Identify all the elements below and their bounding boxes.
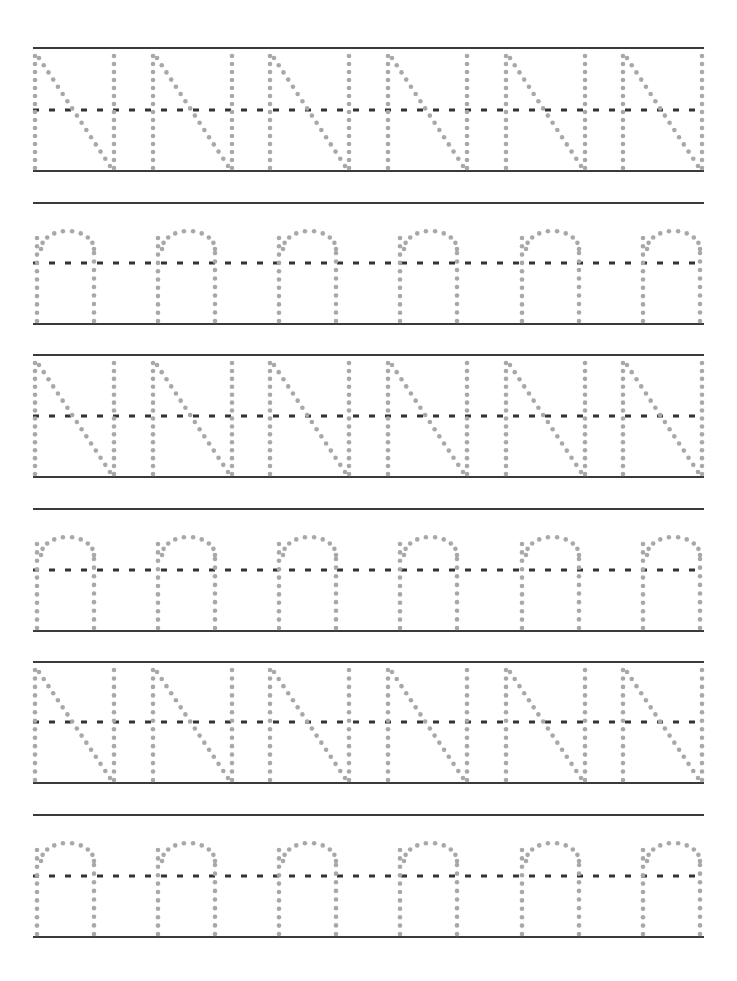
traceable-letter-n bbox=[156, 841, 218, 936]
row-graphics bbox=[0, 0, 737, 981]
tracing-worksheet: Letter N tracing practice bbox=[0, 0, 737, 981]
traceable-letter-n bbox=[520, 841, 582, 936]
traceable-letter-n bbox=[398, 841, 460, 936]
traceable-letter-n bbox=[641, 841, 703, 936]
traceable-letter-n bbox=[35, 841, 97, 936]
traceable-letter-n bbox=[277, 841, 339, 936]
